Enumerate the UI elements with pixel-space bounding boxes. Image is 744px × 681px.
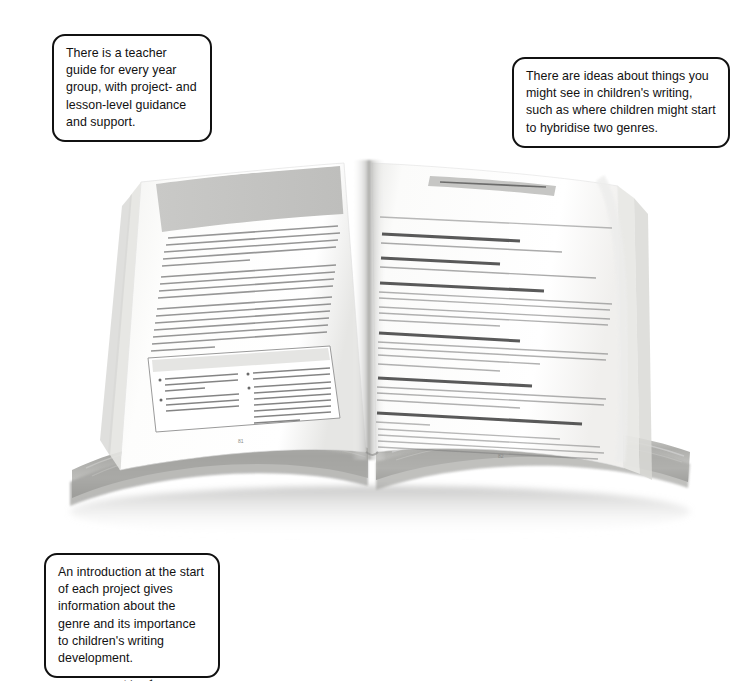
- things-to-bear-in-mind-panel: [148, 346, 340, 432]
- callout-children-writing-ideas-text: There are ideas about things you might s…: [526, 68, 717, 137]
- callout-children-writing-ideas: There are ideas about things you might s…: [512, 57, 730, 148]
- book-drop-shadow: [70, 486, 690, 538]
- annotated-book-figure: 81 82 Class writing project: Fables 1 (T…: [0, 0, 744, 681]
- right-page: [372, 163, 624, 468]
- callout-teacher-guide: There is a teacher guide for every year …: [52, 34, 212, 142]
- left-page-number: 81: [238, 438, 244, 444]
- book-gutter: [352, 160, 386, 460]
- callout-teacher-guide-text: There is a teacher guide for every year …: [66, 45, 199, 131]
- callout-project-introduction: An introduction at the start of each pro…: [44, 553, 220, 678]
- right-page-number: 82: [498, 453, 504, 459]
- callout-project-introduction-text: An introduction at the start of each pro…: [58, 564, 207, 667]
